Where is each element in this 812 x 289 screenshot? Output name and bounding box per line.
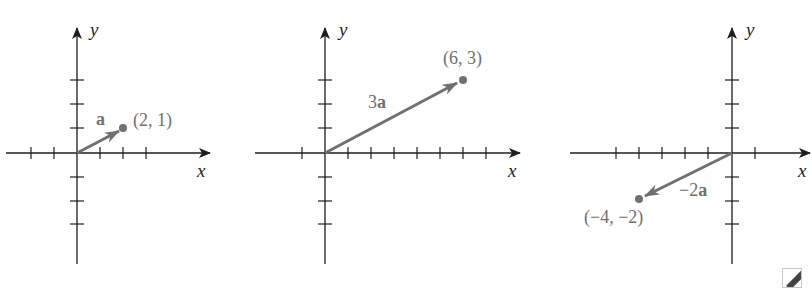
endpoint-dot xyxy=(119,124,127,132)
endpoint-dot xyxy=(635,195,643,203)
y-axis-label: y xyxy=(337,19,348,40)
vector-label: −2a xyxy=(679,180,707,200)
vector-a xyxy=(77,131,119,153)
panel-a: y x a (2, 1) xyxy=(6,19,210,264)
x-axis-label: x xyxy=(507,160,517,181)
point-label: (−4, −2) xyxy=(584,207,643,228)
expand-icon[interactable] xyxy=(782,268,802,288)
x-axis-label: x xyxy=(196,160,206,181)
point-label: (2, 1) xyxy=(133,110,172,131)
vector-3a xyxy=(325,83,457,153)
endpoint-dot xyxy=(459,76,467,84)
vector-diagram: y x a (2, 1) y x 3 xyxy=(0,0,812,289)
y-axis-label: y xyxy=(88,19,99,40)
panel-3a: y x 3a (6, 3) xyxy=(255,19,520,264)
x-axis-label: x xyxy=(797,160,807,181)
point-label: (6, 3) xyxy=(443,48,482,69)
y-axis-label: y xyxy=(744,19,755,40)
vector-label: a xyxy=(96,109,105,129)
panel-neg2a: y x −2a (−4, −2) xyxy=(570,19,810,264)
vector-label: 3a xyxy=(368,92,386,112)
